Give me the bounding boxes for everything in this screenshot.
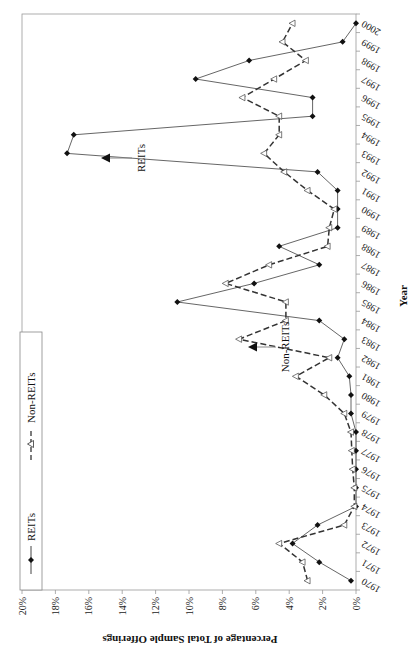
diamond-marker-icon bbox=[341, 336, 347, 342]
y-tick-label: 12% bbox=[150, 597, 161, 615]
y-tick-label: 20% bbox=[17, 597, 28, 615]
diamond-marker-icon bbox=[310, 95, 316, 101]
triangle-marker-icon bbox=[279, 39, 285, 45]
x-tick-label: 1996 bbox=[360, 93, 383, 113]
y-tick-label: 16% bbox=[83, 597, 94, 615]
reits-line bbox=[67, 23, 356, 580]
triangle-marker-icon bbox=[222, 280, 228, 286]
diamond-marker-icon bbox=[335, 225, 341, 231]
x-tick-label: 1979 bbox=[360, 409, 383, 429]
y-tick-label: 4% bbox=[284, 597, 295, 610]
triangle-marker-icon bbox=[276, 540, 282, 546]
y-tick-label: 14% bbox=[117, 597, 128, 615]
legend-label-non-reits: Non-REITs bbox=[25, 372, 37, 423]
diamond-marker-icon bbox=[348, 392, 354, 398]
x-tick-label: 1980 bbox=[360, 390, 383, 410]
x-tick-label: 1976 bbox=[360, 464, 383, 484]
x-axis-title: Year bbox=[397, 285, 409, 307]
x-tick-label: 1971 bbox=[360, 557, 383, 577]
x-tick-label: 1994 bbox=[360, 130, 383, 150]
diamond-marker-icon bbox=[251, 280, 257, 286]
diamond-marker-icon bbox=[346, 373, 352, 379]
legend-label-reits: REITs bbox=[25, 513, 37, 541]
x-tick-label: 1988 bbox=[360, 242, 383, 262]
x-tick-label: 1999 bbox=[360, 37, 383, 57]
x-tick-label: 2000 bbox=[360, 19, 383, 39]
triangle-marker-icon bbox=[239, 94, 245, 100]
x-tick-label: 1998 bbox=[360, 56, 383, 76]
x-tick-label: 1990 bbox=[360, 204, 383, 224]
legend: REITs Non-REITs bbox=[20, 332, 42, 590]
x-tick-label: 1997 bbox=[360, 74, 383, 94]
diamond-marker-icon bbox=[316, 559, 322, 565]
diamond-marker-icon bbox=[276, 243, 282, 249]
y-axis-title: Percentage of Total Sample Offerings bbox=[102, 634, 278, 646]
triangle-marker-icon bbox=[341, 522, 347, 528]
triangle-marker-icon bbox=[292, 373, 298, 379]
diamond-marker-icon bbox=[174, 299, 180, 305]
x-tick-label: 1984 bbox=[360, 316, 383, 336]
series-lines bbox=[64, 20, 359, 584]
y-tick-label: 8% bbox=[217, 597, 228, 610]
annotation-label: REITs bbox=[135, 144, 147, 172]
diamond-marker-icon bbox=[353, 429, 359, 435]
x-tick-label: 1972 bbox=[360, 539, 383, 559]
x-tick-label: 1977 bbox=[360, 446, 383, 466]
x-tick-label: 1975 bbox=[360, 483, 383, 503]
arrowhead-icon bbox=[248, 343, 257, 352]
x-tick-label: 1985 bbox=[360, 297, 383, 317]
diamond-marker-icon bbox=[193, 76, 199, 82]
triangle-marker-icon bbox=[289, 20, 295, 26]
x-tick-label: 1973 bbox=[360, 520, 383, 540]
diamond-marker-icon bbox=[316, 262, 322, 268]
annotations: REITsNon-REITs bbox=[101, 144, 291, 372]
x-tick-label: 1982 bbox=[360, 353, 383, 373]
x-tick-label: 1991 bbox=[360, 186, 383, 206]
y-tick-label: 2% bbox=[317, 597, 328, 610]
triangle-marker-icon bbox=[266, 262, 272, 268]
non-reits-line bbox=[226, 23, 355, 580]
diamond-marker-icon bbox=[353, 20, 359, 26]
y-tick-label: 0% bbox=[351, 597, 362, 610]
diamond-marker-icon bbox=[348, 578, 354, 584]
rotated-chart-stage: 0%2%4%6%8%10%12%14%16%18%20%197019711972… bbox=[0, 0, 417, 650]
x-tick-label: 1992 bbox=[360, 167, 383, 187]
diamond-marker-icon bbox=[348, 410, 354, 416]
x-tick-label: 1989 bbox=[360, 223, 383, 243]
x-tick-label: 1983 bbox=[360, 334, 383, 354]
x-tick-label: 1970 bbox=[360, 576, 383, 596]
y-tick-label: 6% bbox=[250, 597, 261, 610]
y-tick-label: 18% bbox=[50, 597, 61, 615]
annotation-label: Non-REITs bbox=[279, 322, 291, 373]
x-tick-label: 1995 bbox=[360, 111, 383, 131]
arrowhead-icon bbox=[101, 154, 110, 163]
x-tick-label: 1987 bbox=[360, 260, 383, 280]
tick-labels: 0%2%4%6%8%10%12%14%16%18%20%197019711972… bbox=[17, 19, 383, 616]
diamond-marker-icon bbox=[310, 113, 316, 119]
plot-frame bbox=[22, 14, 356, 590]
x-tick-label: 1978 bbox=[360, 427, 383, 447]
x-tick-label: 1981 bbox=[360, 372, 383, 392]
diamond-marker-icon bbox=[71, 132, 77, 138]
diamond-marker-icon bbox=[335, 355, 341, 361]
x-tick-label: 1974 bbox=[360, 502, 383, 522]
line-chart: 0%2%4%6%8%10%12%14%16%18%20%197019711972… bbox=[0, 0, 417, 650]
x-tick-label: 1993 bbox=[360, 149, 383, 169]
triangle-marker-icon bbox=[236, 336, 242, 342]
x-tick-label: 1986 bbox=[360, 279, 383, 299]
diamond-marker-icon bbox=[340, 39, 346, 45]
diamond-marker-icon bbox=[246, 57, 252, 63]
diamond-marker-icon bbox=[64, 150, 70, 156]
y-tick-label: 10% bbox=[184, 597, 195, 615]
triangle-marker-icon bbox=[261, 150, 267, 156]
